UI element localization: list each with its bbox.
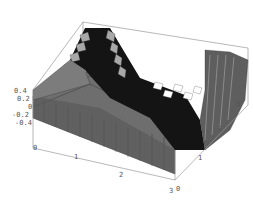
z-axis: 0.4 0.2 0 -0.2 -0.4 [12,87,32,127]
x-tick: 1 [74,153,78,161]
z-tick: 0.4 [14,87,27,95]
y-tick: 0 [176,185,180,193]
z-tick: -0.4 [15,119,32,127]
surface [33,28,248,174]
z-tick: 0 [28,103,32,111]
y-tick: 3 [236,100,240,108]
y-tick: 1 [198,154,202,162]
x-tick: 3 [169,187,173,195]
z-tick: 0.2 [17,95,30,103]
y-tick: 2 [218,125,222,133]
x-tick: 0 [33,144,37,152]
x-tick: 2 [119,171,123,179]
z-tick: -0.2 [12,111,29,119]
surface-plot: 0.4 0.2 0 -0.2 -0.4 0 1 2 3 0 1 2 3 [0,0,253,209]
